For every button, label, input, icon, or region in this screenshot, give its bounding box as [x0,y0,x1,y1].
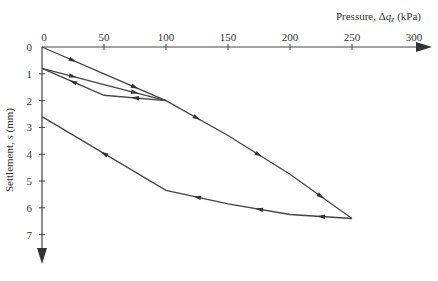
settlement-pressure-chart: 05010015020025030001234567 Pressure, Δqz… [0,0,438,281]
y-axis-title: Settlement, s (mm) [3,108,16,192]
direction-arrow-icon [131,95,139,100]
x-axis-arrow-icon [416,42,432,52]
series-line [42,117,352,219]
y-tick-label: 1 [27,68,33,80]
direction-arrow-icon [192,114,201,122]
direction-arrow-icon [254,151,263,159]
y-tick-label: 2 [27,95,33,107]
x-tick-label: 250 [344,31,361,43]
x-tick-label: 300 [406,31,423,43]
y-tick-label: 5 [27,175,33,187]
x-tick-label: 150 [220,31,237,43]
direction-arrow-icon [68,57,77,64]
y-tick-label: 7 [27,229,33,241]
y-tick-label: 4 [27,148,33,160]
x-tick-label: 200 [282,31,299,43]
x-tick-label: 0 [41,31,47,43]
direction-arrow-icon [99,150,108,158]
direction-arrow-icon [69,73,78,79]
y-axis-arrow-icon [37,248,47,264]
x-tick-label: 50 [99,31,111,43]
x-tick-label: 100 [158,31,175,43]
data-series [42,47,352,219]
chart-svg: 05010015020025030001234567 Pressure, Δqz… [0,0,438,281]
direction-arrow-icon [68,78,77,85]
y-tick-label: 3 [27,121,33,133]
y-tick-label: 0 [27,41,33,53]
x-axis-title: Pressure, Δqz (kPa) [336,10,421,24]
direction-arrow-icon [131,89,140,95]
direction-arrow-icon [317,214,325,219]
y-tick-label: 6 [27,202,33,214]
